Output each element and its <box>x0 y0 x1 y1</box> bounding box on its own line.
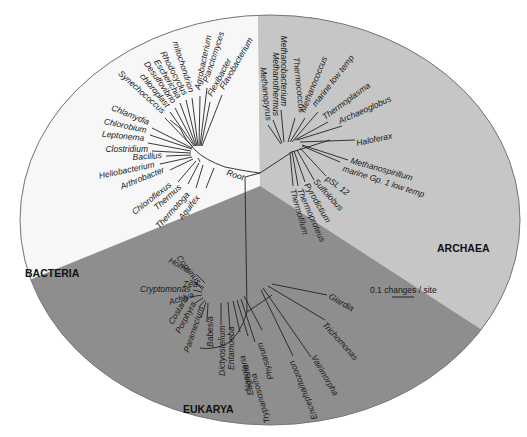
tree-of-life-diagram: mitochondrionAgrobacteriumPlanctomycesFl… <box>0 0 527 437</box>
bacteria-label: BACTERIA <box>25 267 80 279</box>
eukarya-taxon-label: Entamoeba <box>226 326 236 370</box>
scale-bar-label: 0.1 changes / site <box>370 285 437 295</box>
eukarya-label: EUKARYA <box>183 403 234 415</box>
eukarya-taxon-label: Babesia <box>205 316 215 347</box>
archaea-label: ARCHAEA <box>437 242 490 254</box>
